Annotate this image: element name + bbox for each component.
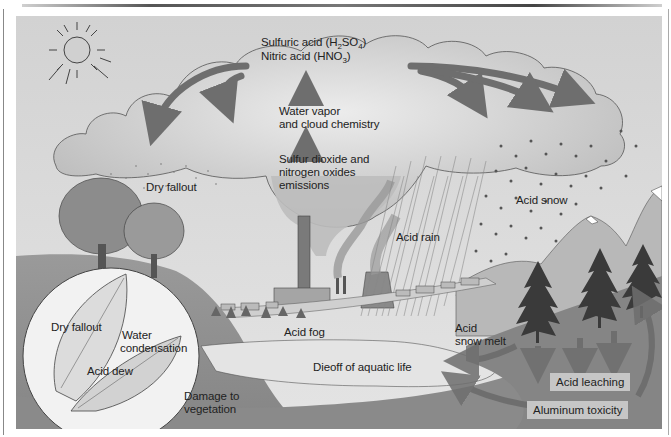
label-dieoff-aquatic-life: Dieoff of aquatic life xyxy=(313,361,412,374)
label-acid-rain: Acid rain xyxy=(396,231,440,244)
label-dry-fallout: Dry fallout xyxy=(146,181,197,194)
smokestack xyxy=(298,216,310,296)
label-acid-fog: Acid fog xyxy=(284,326,325,339)
label-acid-leaching: Acid leaching xyxy=(550,373,630,391)
label-aluminum-toxicity: Aluminum toxicity xyxy=(527,401,628,419)
label-acid-snow: Acid snow xyxy=(516,194,568,207)
inset-label-acid-dew: Acid dew xyxy=(87,365,133,378)
label-sulfuric-acid: Sulfuric acid (H2SO4) xyxy=(261,36,366,49)
label-water-vapor: Water vapor and cloud chemistry xyxy=(279,105,379,131)
acid-rain-diagram: Sulfuric acid (H2SO4) Nitric acid (HNO3)… xyxy=(16,16,662,429)
top-rule xyxy=(22,4,662,7)
inset-label-dry-fallout: Dry fallout xyxy=(51,321,102,334)
label-acid-snow-melt: Acid snow melt xyxy=(455,322,506,348)
label-damage-to-vegetation: Damage to vegetation xyxy=(184,390,239,416)
inset-label-water-condensation: Water condensation xyxy=(120,329,187,355)
label-emissions: Sulfur dioxide and nitrogen oxides emiss… xyxy=(279,153,369,192)
label-nitric-acid: Nitric acid (HNO3) xyxy=(261,50,351,63)
